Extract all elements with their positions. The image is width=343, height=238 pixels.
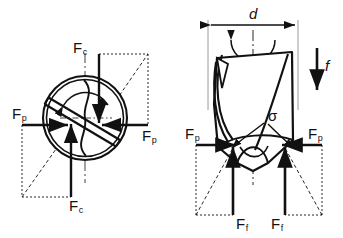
label-ff-right: Ff bbox=[271, 216, 283, 233]
right-lower-left-diagonal bbox=[196, 148, 233, 215]
diagram-vector-graphics bbox=[0, 0, 343, 238]
right-lower-right-diagonal bbox=[285, 148, 322, 215]
label-fc-top: Fc bbox=[73, 40, 87, 57]
label-feed: f bbox=[325, 58, 329, 74]
label-point-angle-sigma: σ bbox=[268, 108, 277, 124]
label-fc-bottom: Fc bbox=[69, 198, 83, 215]
label-fp-left: Fp bbox=[12, 106, 27, 123]
label-diameter: d bbox=[249, 6, 257, 22]
label-fp-right: Fp bbox=[142, 128, 157, 145]
right-lower-right-parallelogram bbox=[285, 145, 322, 215]
right-view-group bbox=[196, 20, 322, 215]
left-view-group bbox=[22, 53, 148, 197]
right-label-fp-left: Fp bbox=[185, 126, 200, 143]
label-ff-left: Ff bbox=[236, 216, 248, 233]
diagram-canvas: Fc Fc Fp Fp d f σ Fp Fp Ff Ff bbox=[0, 0, 343, 238]
right-label-fp-right: Fp bbox=[308, 126, 323, 143]
